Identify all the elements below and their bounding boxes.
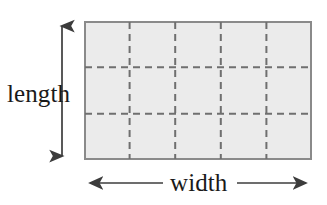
width-label: width — [170, 170, 227, 195]
length-label: length — [7, 81, 70, 106]
rectangle-body — [85, 22, 311, 159]
rectangle-area-diagram: length width — [0, 0, 327, 205]
